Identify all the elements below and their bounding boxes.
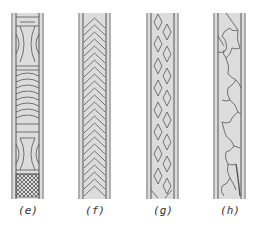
label-f: (f) [75, 204, 115, 217]
panel-e [11, 13, 44, 199]
panel-f [78, 13, 111, 199]
panel-g [146, 13, 179, 199]
label-h: (h) [210, 204, 250, 217]
strip-diagram [0, 0, 261, 229]
panel-h [213, 13, 246, 199]
label-e: (e) [8, 204, 48, 217]
label-g: (g) [143, 204, 183, 217]
